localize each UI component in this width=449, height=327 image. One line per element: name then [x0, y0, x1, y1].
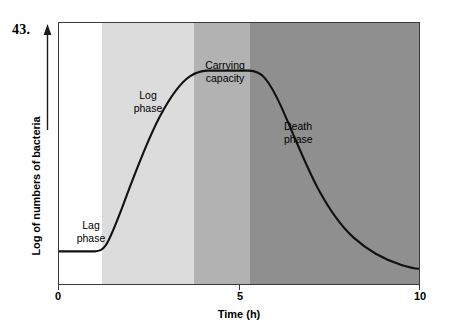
y-axis-title: Log of numbers of bacteria: [30, 106, 42, 266]
label-lag-phase: Lag phase: [69, 219, 113, 244]
x-tick-label-0: 0: [43, 290, 73, 302]
label-log-phase: Log phase: [125, 89, 171, 114]
problem-number: 43.: [12, 22, 30, 38]
x-tick-label-5: 5: [225, 290, 255, 302]
up-arrow-icon: [41, 24, 54, 132]
x-tick-label-10: 10: [405, 290, 435, 302]
plot-area: Lag phase Log phase Carrying capacity De…: [58, 22, 420, 285]
label-death-phase: Death phase: [284, 120, 334, 145]
x-axis-title: Time (h): [58, 308, 420, 320]
label-carrying-capacity: Carrying capacity: [194, 59, 256, 84]
growth-curve-figure: 43. Log of numbers of bacteria Lag phase…: [0, 0, 449, 327]
